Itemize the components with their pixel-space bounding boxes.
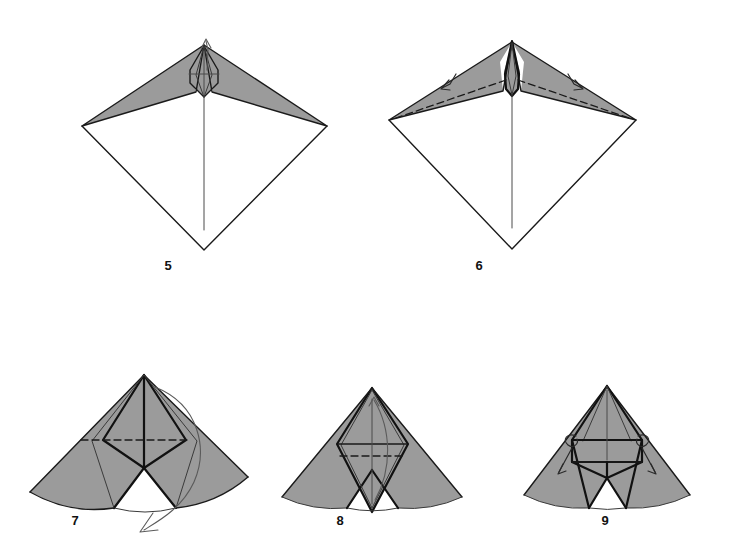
figure-5-number: 5 [164,258,171,273]
figure-7-number: 7 [71,513,78,528]
figure-6-number: 6 [475,258,482,273]
origami-diagram-canvas: 5 6 [0,0,744,545]
figure-9-number: 9 [601,513,608,528]
figure-8-number: 8 [336,513,343,528]
